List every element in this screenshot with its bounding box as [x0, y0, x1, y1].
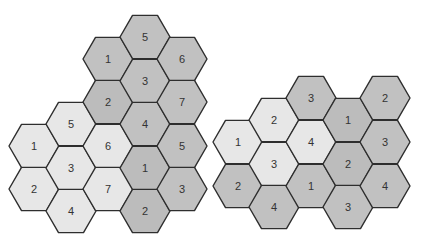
cell-label: 2 — [271, 114, 277, 126]
cell-label: 4 — [382, 180, 388, 192]
cell-label: 5 — [179, 140, 185, 152]
cell-label: 3 — [271, 158, 277, 170]
cell-label: 1 — [308, 180, 314, 192]
cell-label: 4 — [271, 201, 277, 213]
cell-label: 2 — [105, 96, 111, 108]
cell-label: 5 — [142, 31, 148, 43]
cell-label: 7 — [179, 96, 185, 108]
cell-label: 2 — [382, 92, 388, 104]
cell-label: 3 — [382, 136, 388, 148]
cell-label: 1 — [235, 136, 241, 148]
cell-label: 6 — [179, 53, 185, 65]
cell-label: 3 — [308, 92, 314, 104]
cell-label: 7 — [105, 183, 111, 195]
cell-label: 3 — [179, 183, 185, 195]
cell-label: 1 — [105, 53, 111, 65]
four-cell-cluster-figure: 12234341123234 — [213, 76, 410, 228]
cell-label: 2 — [235, 180, 241, 192]
cell-label: 1 — [345, 114, 351, 126]
hexagon-cell-diagram: 125341267534126753 12234341123234 — [0, 0, 421, 243]
cell-label: 4 — [68, 205, 74, 217]
cell-label: 1 — [142, 162, 148, 174]
cell-label: 2 — [31, 183, 37, 195]
cell-label: 4 — [142, 118, 148, 130]
cell-label: 3 — [68, 162, 74, 174]
cell-label: 4 — [308, 136, 314, 148]
cell-label: 3 — [142, 75, 148, 87]
seven-cell-cluster-figure: 125341267534126753 — [9, 15, 207, 232]
cell-label: 2 — [142, 205, 148, 217]
cell-label: 5 — [68, 118, 74, 130]
cell-label: 3 — [345, 201, 351, 213]
cell-label: 6 — [105, 140, 111, 152]
cell-label: 2 — [345, 158, 351, 170]
cell-label: 1 — [31, 140, 37, 152]
